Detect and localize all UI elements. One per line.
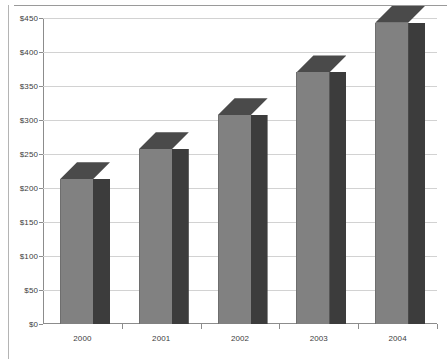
bar-side-face (408, 23, 425, 324)
x-axis-tick-label: 2004 (388, 334, 406, 343)
y-axis-line (43, 18, 44, 324)
category-separator (201, 324, 202, 329)
bar-top-face (296, 55, 346, 72)
y-tick-mark (39, 86, 43, 87)
bar-2002 (218, 98, 268, 324)
bar-side-face (172, 149, 189, 324)
bar-2003 (296, 55, 346, 324)
y-tick-mark (39, 222, 43, 223)
x-axis-tick-label: 2000 (73, 334, 91, 343)
bar-top-face (218, 98, 268, 115)
y-tick-mark (39, 120, 43, 121)
bar-chart: $0$50$100$150$200$250$300$350$400$450 20… (0, 0, 447, 359)
bar-side-face (93, 179, 110, 324)
y-axis-tick-label: $250 (20, 150, 38, 159)
y-tick-mark (39, 154, 43, 155)
bar-top-face (375, 6, 425, 23)
bar-front-face (218, 115, 252, 324)
bar-front-face (60, 179, 94, 324)
y-tick-mark (39, 290, 43, 291)
x-axis-tick-label: 2002 (231, 334, 249, 343)
y-axis-tick-label: $400 (20, 48, 38, 57)
y-axis-tick-label: $0 (29, 320, 38, 329)
y-tick-mark (39, 18, 43, 19)
category-separator (279, 324, 280, 329)
y-axis-tick-label: $350 (20, 82, 38, 91)
category-separator (122, 324, 123, 329)
y-axis-tick-label: $450 (20, 14, 38, 23)
bar-side-face (251, 115, 268, 324)
bar-2004 (375, 6, 425, 324)
bar-top-face (60, 162, 110, 179)
y-axis-tick-label: $50 (24, 286, 38, 295)
bar-front-face (139, 149, 173, 324)
y-tick-mark (39, 52, 43, 53)
category-separator (437, 324, 438, 329)
bar-top-face (139, 132, 189, 149)
y-tick-mark (39, 256, 43, 257)
y-axis-tick-label: $200 (20, 184, 38, 193)
category-separator (358, 324, 359, 329)
x-axis-tick-label: 2001 (152, 334, 170, 343)
bar-2001 (139, 132, 189, 324)
y-axis-tick-label: $300 (20, 116, 38, 125)
plot-area: $0$50$100$150$200$250$300$350$400$450 20… (43, 18, 437, 324)
y-axis-tick-label: $150 (20, 218, 38, 227)
y-tick-mark (39, 188, 43, 189)
y-tick-mark (39, 324, 43, 325)
bar-front-face (296, 72, 330, 324)
bar-2000 (60, 162, 110, 324)
x-axis-tick-label: 2003 (310, 334, 328, 343)
page-rule-left (8, 5, 9, 359)
bar-side-face (329, 72, 346, 324)
bar-front-face (375, 23, 409, 324)
y-axis-tick-label: $100 (20, 252, 38, 261)
